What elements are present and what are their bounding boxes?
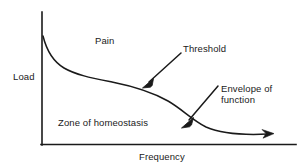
threshold-arrow-shaft bbox=[149, 53, 181, 82]
region-label-zone-of-homeostasis: Zone of homeostasis bbox=[58, 117, 148, 128]
envelope-arrow-shaft bbox=[189, 86, 218, 120]
region-label-pain: Pain bbox=[95, 35, 114, 46]
y-axis-label: Load bbox=[13, 71, 35, 82]
envelope-of-function-diagram: Load Frequency Pain Zone of homeostasis … bbox=[0, 0, 308, 167]
annotation-label-threshold: Threshold bbox=[183, 43, 226, 54]
annotation-label-envelope-of-function: Envelope of function bbox=[221, 83, 272, 105]
threshold-arrowhead-icon bbox=[143, 79, 154, 89]
x-axis-label: Frequency bbox=[139, 151, 185, 162]
envelope-arrowhead-icon bbox=[182, 118, 194, 129]
